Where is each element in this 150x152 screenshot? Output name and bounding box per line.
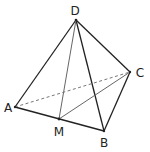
edge-db <box>76 20 104 131</box>
vertex-dots <box>14 19 131 133</box>
edge-ad <box>15 20 76 107</box>
tetrahedron-diagram: D A M B C <box>0 0 150 152</box>
label-d: D <box>70 4 79 18</box>
point-d <box>75 19 78 22</box>
label-b: B <box>100 136 108 150</box>
edge-dm <box>59 20 76 119</box>
edges <box>15 20 130 131</box>
point-b <box>103 130 105 132</box>
label-m: M <box>54 125 64 139</box>
edge-ac-hidden <box>15 72 130 107</box>
point-c <box>129 71 131 73</box>
point-m <box>58 118 61 121</box>
label-a: A <box>4 101 13 115</box>
label-c: C <box>136 66 144 80</box>
edge-dc <box>76 20 130 72</box>
point-a <box>14 106 16 108</box>
